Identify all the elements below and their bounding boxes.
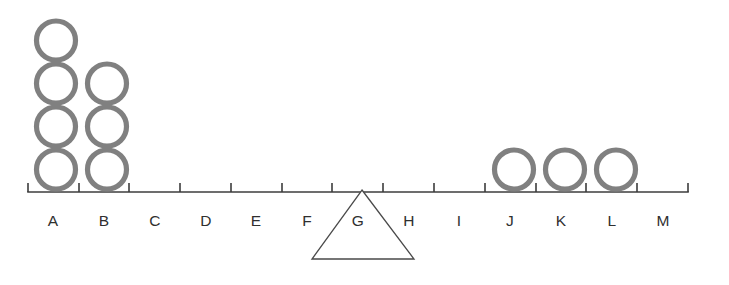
weight-circle-B-2 xyxy=(88,107,127,146)
weight-circle-L-1 xyxy=(597,150,636,189)
weight-circle-J-1 xyxy=(495,150,534,189)
weight-circle-A-1 xyxy=(37,150,76,189)
balance-beam-canvas: ABCDEFGHIJKLM xyxy=(0,0,729,285)
weight-stack-group xyxy=(37,21,636,189)
axis-label-C: C xyxy=(149,212,160,229)
weight-circle-A-3 xyxy=(37,64,76,103)
axis-label-F: F xyxy=(302,212,312,229)
axis-label-I: I xyxy=(457,212,462,229)
weight-circle-B-3 xyxy=(88,64,127,103)
axis-label-group: ABCDEFGHIJKLM xyxy=(48,212,670,229)
axis-label-J: J xyxy=(506,212,514,229)
axis-label-G: G xyxy=(352,212,364,229)
axis-label-L: L xyxy=(608,212,617,229)
weight-circle-A-4 xyxy=(37,21,76,60)
weight-circle-B-1 xyxy=(88,150,127,189)
axis-label-E: E xyxy=(251,212,262,229)
axis-label-K: K xyxy=(556,212,567,229)
axis-label-B: B xyxy=(99,212,110,229)
axis-label-H: H xyxy=(403,212,414,229)
weight-circle-A-2 xyxy=(37,107,76,146)
weight-circle-K-1 xyxy=(546,150,585,189)
balance-beam-figure: ABCDEFGHIJKLM xyxy=(0,0,729,285)
axis-tick-group xyxy=(28,183,688,192)
axis-label-D: D xyxy=(200,212,211,229)
axis-label-A: A xyxy=(48,212,59,229)
axis-label-M: M xyxy=(656,212,669,229)
